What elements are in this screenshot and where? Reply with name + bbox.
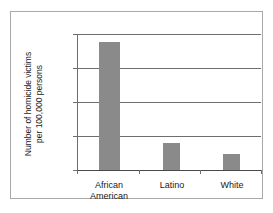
y-axis-line: [77, 34, 78, 170]
bar-white: [223, 154, 240, 170]
plot-area: 20 15 10 5 0 African American Latino: [77, 34, 261, 170]
y-axis-title-line-2: per 100,000 persons: [34, 34, 45, 174]
x-tick-mark-1: [139, 170, 140, 174]
x-tick-mark-0: [77, 170, 78, 174]
x-tick-mark-3: [261, 170, 262, 174]
x-tick-mark-2: [200, 170, 201, 174]
x-category-label-white: White: [195, 180, 269, 191]
x-category-label-line-1: White: [195, 180, 269, 191]
bar-latino: [163, 143, 180, 170]
gridline-20: [77, 34, 261, 35]
x-axis-line: [77, 170, 261, 171]
y-axis-title-line-1: Number of homicide victims: [23, 34, 34, 174]
x-category-label-line-2: American: [72, 191, 146, 202]
figure-frame: Number of homicide victims per 100,000 p…: [10, 11, 263, 199]
chart-figure: Number of homicide victims per 100,000 p…: [0, 0, 273, 213]
bar-african-american: [99, 42, 120, 170]
y-axis-title: Number of homicide victims per 100,000 p…: [23, 34, 51, 174]
